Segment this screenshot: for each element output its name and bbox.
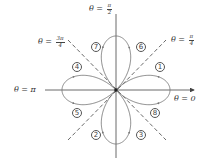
label-theta-0: θ = 0 — [174, 95, 196, 103]
polar-rose-diagram — [0, 0, 206, 165]
label-theta-pi-4: θ = π4 — [171, 34, 194, 46]
segment-label-4: 4 — [72, 62, 82, 72]
direction-arrow-icon — [128, 132, 130, 134]
segment-label-7: 7 — [91, 42, 101, 52]
direction-arrow-icon — [102, 132, 104, 134]
label-theta-pi: θ = π — [14, 86, 36, 94]
direction-arrow-icon — [73, 76, 75, 78]
segment-label-6: 6 — [136, 42, 146, 52]
origin-point — [114, 88, 118, 92]
direction-arrow-icon — [128, 47, 130, 49]
segment-label-1: 1 — [155, 62, 165, 72]
segment-label-3: 3 — [136, 130, 146, 140]
segment-label-5: 5 — [72, 108, 82, 118]
label-theta-3pi-4: θ = 3π4 — [38, 36, 65, 48]
direction-arrow-icon — [102, 46, 104, 48]
direction-arrow-icon — [72, 102, 74, 104]
label-theta-pi-2: θ = π2 — [89, 3, 112, 15]
segment-label-8: 8 — [150, 108, 160, 118]
direction-arrow-icon — [158, 76, 160, 78]
direction-arrow-icon — [157, 102, 159, 104]
segment-label-2: 2 — [91, 130, 101, 140]
